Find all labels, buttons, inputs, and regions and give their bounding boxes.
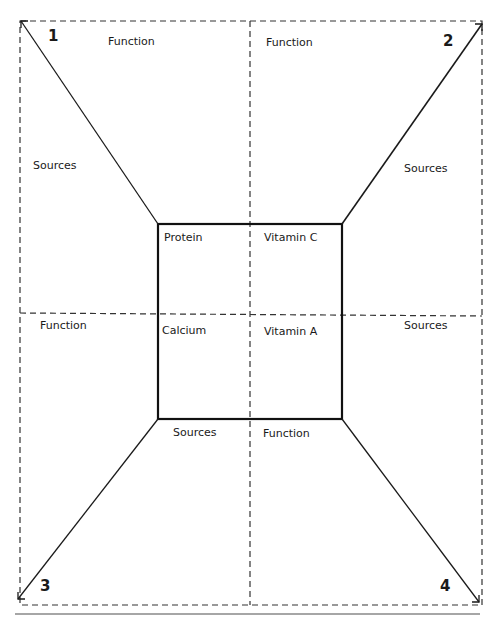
flap-label-top-left-sources: Sources	[33, 160, 77, 171]
corner-number-2: 2	[443, 34, 453, 49]
center-cell-vitamin-a: Vitamin A	[264, 326, 317, 337]
flap-label-top-right-sources: Sources	[404, 163, 448, 174]
center-cell-calcium: Calcium	[162, 325, 206, 336]
corner-number-3: 3	[40, 579, 50, 594]
diagonal-1	[21, 21, 158, 224]
outer-dashed-frame	[20, 21, 482, 605]
center-cell-protein: Protein	[164, 232, 203, 243]
flap-label-top-right-function: Function	[266, 37, 313, 48]
center-cell-vitamin-c: Vitamin C	[264, 232, 317, 243]
diagonal-4	[342, 419, 479, 602]
corner-number-4: 4	[440, 579, 450, 594]
flap-label-bottom-right-sources: Sources	[404, 320, 448, 331]
flap-label-bottom-right-function: Function	[263, 428, 310, 439]
flap-label-bottom-left-sources: Sources	[173, 427, 217, 438]
horizontal-fold-line	[20, 313, 482, 316]
diagram-lines	[0, 0, 499, 620]
diagonal-3	[18, 419, 158, 599]
corner-number-1: 1	[48, 29, 58, 44]
flap-label-bottom-left-function: Function	[40, 320, 87, 331]
flap-label-top-left-function: Function	[108, 36, 155, 47]
diagonal-2	[342, 24, 482, 224]
